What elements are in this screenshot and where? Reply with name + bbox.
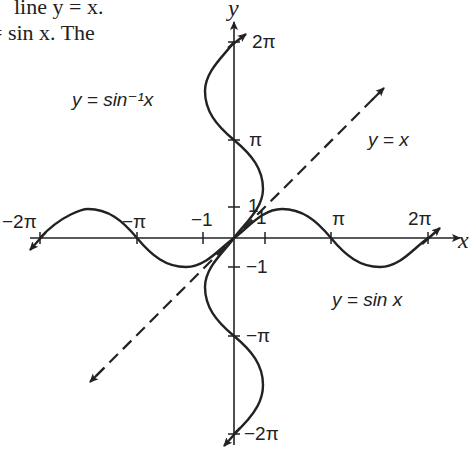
x-axis-label: x [457, 227, 469, 253]
arcsin-top-arrow [228, 34, 246, 48]
y-tick-label-neg-2pi: −2π [244, 423, 279, 444]
y-tick-label-neg-1: −1 [246, 256, 268, 277]
sin-label: y = sin x [330, 289, 404, 310]
arcsin-label: y = sin⁻¹x [70, 89, 155, 110]
y-tick-label-pi: π [249, 129, 262, 150]
identity-bottom-arrow [90, 368, 104, 382]
x-tick-label-neg-2pi: −2π [2, 211, 37, 232]
identity-label: y = x [366, 129, 410, 150]
x-tick-label-neg-1: −1 [191, 209, 213, 230]
sin-left-arrow [30, 232, 46, 250]
arcsin-bottom-arrow [224, 428, 240, 446]
y-tick-label-1: 1 [248, 195, 259, 216]
graph-canvas: x y −2π −π −1 1 π 2π 2π π 1 −1 −π −2π y … [0, 0, 475, 449]
identity-top-arrow [372, 88, 384, 100]
y-tick-label-2pi: 2π [252, 31, 276, 52]
x-tick-label-pi: π [332, 208, 345, 229]
y-axis-label: y [226, 0, 239, 21]
x-tick-label-2pi: 2π [408, 208, 432, 229]
x-tick-label-neg-pi: −π [122, 211, 146, 232]
identity-line [96, 92, 380, 376]
y-tick-label-neg-pi: −π [246, 325, 270, 346]
sin-right-arrow [422, 228, 440, 244]
